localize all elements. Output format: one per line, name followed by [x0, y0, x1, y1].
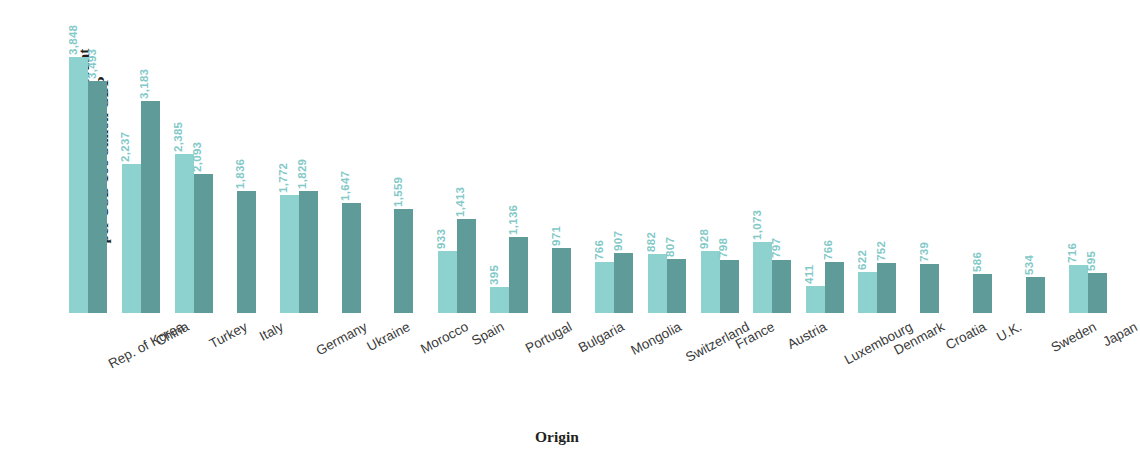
bar-light: 928	[701, 251, 720, 313]
x-axis-tick-labels: Rep. of KoreaChinaTurkeyItalyGermanyUkra…	[62, 313, 1114, 413]
bar-light: 1,772	[280, 195, 299, 313]
bar-light: 2,385	[175, 154, 194, 313]
bar-group: 1,073797	[753, 10, 791, 313]
bar-dark: 971	[552, 248, 571, 313]
bar-group: 1,7721,829	[280, 10, 318, 313]
bar-light: 395	[490, 287, 509, 313]
plot-area: 3,8483,4932,2373,1832,3852,0931,8361,772…	[62, 10, 1114, 313]
bar-dark: 1,829	[299, 191, 318, 313]
x-axis-tick-label-text: Croatia	[943, 319, 988, 353]
bar-group: 2,2373,183	[122, 10, 160, 313]
x-axis-title: Origin	[0, 428, 1114, 446]
bar-group: 716595	[1069, 10, 1107, 313]
bar-group: 3951,136	[490, 10, 528, 313]
bar-dark: 1,647	[342, 203, 361, 313]
bar-dark: 739	[920, 264, 939, 313]
bar-light: 411	[806, 286, 825, 313]
bar-dark: 807	[667, 259, 686, 313]
bar-light: 3,848	[69, 57, 88, 313]
x-axis-tick-label-text: Spain	[469, 319, 507, 348]
bar-group: 928798	[701, 10, 739, 313]
x-axis-tick-label-text: Ukraine	[365, 319, 413, 354]
x-axis-tick-label-text: Morocco	[418, 319, 471, 357]
bar-dark: 1,136	[509, 237, 528, 313]
bar-group: 882807	[648, 10, 686, 313]
bar-group: 622752	[858, 10, 896, 313]
bar-group: 766907	[595, 10, 633, 313]
bar-dark: 752	[877, 263, 896, 313]
x-axis-tick-label-text: Mongolia	[629, 319, 684, 358]
bar-dark: 595	[1088, 273, 1107, 313]
bar-group: 9331,413	[438, 10, 476, 313]
bar-group: 739	[920, 10, 939, 313]
bar-light: 2,237	[122, 164, 141, 313]
x-axis-tick-label-text: Bulgaria	[575, 319, 626, 355]
bar-dark: 3,183	[141, 101, 160, 313]
bar-dark: 534	[1026, 277, 1045, 313]
bar-group: 3,8483,493	[69, 10, 107, 313]
x-axis-tick-label-text: Japan	[1100, 319, 1140, 350]
x-axis-tick-label-text: Turkey	[206, 319, 249, 351]
bar-dark: 586	[973, 274, 992, 313]
bar-group: 971	[552, 10, 571, 313]
bar-dark: 2,093	[194, 174, 213, 313]
bar-group: 1,836	[237, 10, 256, 313]
bar-dark: 1,836	[237, 191, 256, 313]
x-axis-tick-label-text: Germany	[313, 319, 369, 358]
bar-group: 534	[1026, 10, 1045, 313]
bar-light: 622	[858, 272, 877, 313]
bar-dark: 766	[825, 262, 844, 313]
bar-group: 586	[973, 10, 992, 313]
bar-light: 882	[648, 254, 667, 313]
bar-dark: 1,413	[457, 219, 476, 313]
x-axis-tick-label-text: Sweden	[1049, 319, 1099, 355]
bar-dark: 3,493	[88, 81, 107, 313]
x-axis-tick-label-text: Italy	[257, 319, 286, 344]
bar-dark: 797	[772, 260, 791, 313]
bar-light: 766	[595, 262, 614, 313]
x-axis-tick-label-text: Portugal	[523, 319, 574, 356]
x-axis-tick-label-text: Austria	[785, 319, 829, 352]
bar-group: 1,647	[342, 10, 361, 313]
bar-group: 1,559	[394, 10, 413, 313]
bar-group: 2,3852,093	[175, 10, 213, 313]
bar-light: 716	[1069, 265, 1088, 313]
bar-dark: 1,559	[394, 209, 413, 313]
bar-light: 933	[438, 251, 457, 313]
x-axis-tick-label-text: U.K.	[994, 319, 1024, 345]
bar-dark: 798	[720, 260, 739, 313]
bar-dark: 907	[614, 253, 633, 313]
bar-group: 411766	[806, 10, 844, 313]
